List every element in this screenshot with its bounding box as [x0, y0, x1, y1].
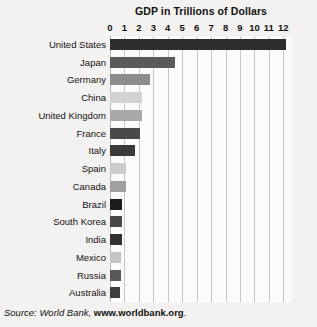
- bar-united-kingdom: [110, 110, 142, 121]
- bar-canada: [110, 181, 126, 192]
- bar-row: [110, 196, 292, 213]
- bar-row: [110, 89, 292, 106]
- source-period-text: .: [184, 307, 187, 318]
- category-label-china: China: [0, 92, 106, 103]
- category-label-brazil: Brazil: [0, 199, 106, 210]
- plot-area: [110, 36, 292, 302]
- x-axis-tick-7: 7: [208, 22, 213, 33]
- bar-united-states: [110, 39, 286, 50]
- bar-brazil: [110, 199, 122, 210]
- bar-mexico: [110, 252, 121, 263]
- category-axis-labels: United StatesJapanGermanyChinaUnited Kin…: [0, 36, 106, 302]
- x-axis-tick-8: 8: [223, 22, 228, 33]
- x-axis-tick-labels: 0123456789101112: [110, 22, 292, 35]
- source-prefix-text: Source: World Bank,: [4, 307, 94, 318]
- bar-australia: [110, 287, 120, 298]
- bar-spain: [110, 163, 126, 174]
- x-axis-tick-0: 0: [107, 22, 112, 33]
- bar-italy: [110, 145, 135, 156]
- category-label-italy: Italy: [0, 145, 106, 156]
- bar-row: [110, 107, 292, 124]
- bar-row: [110, 178, 292, 195]
- chart-title: GDP in Trillions of Dollars: [110, 5, 292, 17]
- source-note: Source: World Bank, www.worldbank.org.: [4, 307, 186, 318]
- x-axis-tick-12: 12: [278, 22, 289, 33]
- source-url-text: www.worldbank.org: [94, 307, 184, 318]
- bar-row: [110, 249, 292, 266]
- x-axis-tick-10: 10: [249, 22, 260, 33]
- bar-row: [110, 284, 292, 301]
- x-axis-tick-11: 11: [264, 22, 274, 33]
- category-label-south-korea: South Korea: [0, 216, 106, 227]
- bar-france: [110, 128, 140, 139]
- category-label-india: India: [0, 234, 106, 245]
- x-axis-tick-9: 9: [237, 22, 242, 33]
- bar-row: [110, 36, 292, 53]
- category-label-germany: Germany: [0, 74, 106, 85]
- gdp-bar-chart-figure: GDP in Trillions of Dollars 012345678910…: [0, 0, 317, 327]
- category-label-australia: Australia: [0, 287, 106, 298]
- x-axis-tick-1: 1: [122, 22, 127, 33]
- bar-russia: [110, 270, 121, 281]
- bar-china: [110, 92, 142, 103]
- bar-row: [110, 213, 292, 230]
- category-label-canada: Canada: [0, 181, 106, 192]
- bar-row: [110, 267, 292, 284]
- bar-germany: [110, 74, 150, 85]
- category-label-united-kingdom: United Kingdom: [0, 110, 106, 121]
- x-axis-tick-5: 5: [180, 22, 185, 33]
- bar-japan: [110, 57, 175, 68]
- bar-india: [110, 234, 122, 245]
- category-label-united-states: United States: [0, 39, 106, 50]
- x-axis-tick-4: 4: [165, 22, 170, 33]
- x-axis-tick-6: 6: [194, 22, 199, 33]
- category-label-japan: Japan: [0, 57, 106, 68]
- bar-row: [110, 142, 292, 159]
- bar-row: [110, 71, 292, 88]
- category-label-russia: Russia: [0, 270, 106, 281]
- bar-row: [110, 54, 292, 71]
- category-label-spain: Spain: [0, 163, 106, 174]
- bar-row: [110, 125, 292, 142]
- x-axis-tick-2: 2: [136, 22, 141, 33]
- category-label-mexico: Mexico: [0, 252, 106, 263]
- bar-south-korea: [110, 216, 122, 227]
- bar-row: [110, 231, 292, 248]
- x-axis-tick-3: 3: [151, 22, 156, 33]
- category-label-france: France: [0, 128, 106, 139]
- bar-row: [110, 160, 292, 177]
